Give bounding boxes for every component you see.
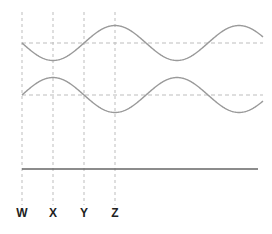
waves	[22, 26, 263, 113]
marker-label-x: X	[49, 206, 57, 220]
marker-label-w: W	[16, 206, 27, 220]
marker-label-z: Z	[111, 206, 118, 220]
wave-diagram	[0, 0, 272, 234]
wave-baselines	[22, 43, 263, 95]
marker-label-y: Y	[80, 206, 88, 220]
